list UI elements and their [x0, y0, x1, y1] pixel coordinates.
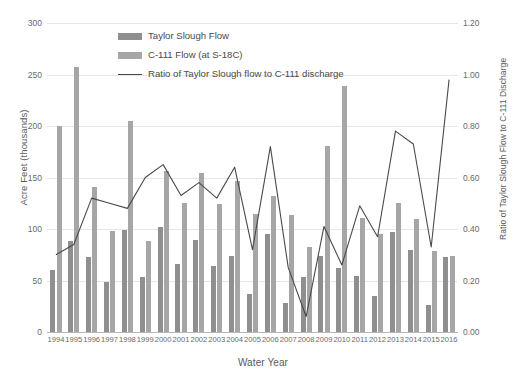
legend-item[interactable]: Ratio of Taylor Slough flow to C-111 dis… [118, 66, 344, 82]
legend-item-label: Taylor Slough Flow [148, 31, 229, 41]
x-tick-label: 2014 [404, 335, 422, 344]
x-tick-label: 2012 [369, 335, 387, 344]
y-tick-label-left: 100 [28, 229, 47, 239]
ratio-polyline [56, 80, 449, 317]
x-tick-label: 1995 [65, 335, 83, 344]
y-tick-label-right: 0.00 [458, 332, 480, 342]
x-tick-label: 2009 [315, 335, 333, 344]
y-tick-label-right: 0.40 [458, 229, 480, 239]
x-axis-title: Water Year [0, 357, 526, 368]
x-tick-label: 2001 [172, 335, 190, 344]
x-tick-label: 2011 [351, 335, 369, 344]
x-tick-label: 1997 [101, 335, 119, 344]
legend-item-label: C-111 Flow (at S-18C) [148, 50, 243, 60]
y-tick-label-right: 1.00 [458, 75, 480, 85]
x-tick-label: 1994 [47, 335, 65, 344]
x-tick-label: 2007 [279, 335, 297, 344]
legend-line-icon [118, 74, 142, 75]
x-tick-label: 2015 [422, 335, 440, 344]
x-tick-label: 2008 [297, 335, 315, 344]
x-tick-label: 2005 [244, 335, 262, 344]
y-axis-right-title: Ratio of Taylor Slough Flow to C-111 Dis… [498, 70, 508, 240]
x-tick-label: 2010 [333, 335, 351, 344]
chart-legend: Taylor Slough FlowC-111 Flow (at S-18C)R… [118, 28, 344, 85]
y-tick-label-left: 150 [28, 178, 47, 188]
legend-item[interactable]: C-111 Flow (at S-18C) [118, 47, 344, 63]
y-tick-label-right: 0.80 [458, 126, 480, 136]
x-tick-label: 2000 [154, 335, 172, 344]
y-tick-label-left: 200 [28, 126, 47, 136]
x-tick-label: 2003 [208, 335, 226, 344]
x-tick-label: 2004 [226, 335, 244, 344]
y-tick-label-left: 50 [33, 281, 47, 291]
legend-item-label: Ratio of Taylor Slough flow to C-111 dis… [148, 69, 344, 79]
y-tick-label-right: 1.20 [458, 23, 480, 33]
y-tick-label-right: 0.60 [458, 178, 480, 188]
y-tick-label-left: 0 [37, 332, 47, 342]
gridline [47, 332, 458, 333]
x-tick-label: 2002 [190, 335, 208, 344]
x-tick-label: 1996 [83, 335, 101, 344]
x-tick-label: 1999 [136, 335, 154, 344]
x-tick-label: 2016 [440, 335, 458, 344]
x-tick-label: 2006 [261, 335, 279, 344]
y-axis-left-title: Acre Feet (thousands) [18, 83, 29, 233]
y-tick-label-left: 300 [28, 23, 47, 33]
x-tick-label: 2013 [387, 335, 405, 344]
chart-container: Acre Feet (thousands) Ratio of Taylor Sl… [0, 0, 526, 376]
y-tick-label-left: 250 [28, 75, 47, 85]
legend-swatch-icon [118, 33, 142, 40]
x-tick-label: 1998 [118, 335, 136, 344]
y-tick-label-right: 0.20 [458, 281, 480, 291]
legend-swatch-icon [118, 52, 142, 59]
legend-item[interactable]: Taylor Slough Flow [118, 28, 344, 44]
